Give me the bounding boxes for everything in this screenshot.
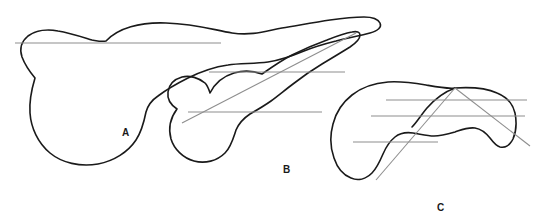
panel-b-axis-line-1 <box>182 33 356 123</box>
panel-c-organ-outline <box>331 82 516 180</box>
panel-c-axis-line-2 <box>455 88 530 146</box>
panel-c-axis-line-1 <box>376 88 455 180</box>
panel-label-b: B <box>283 164 291 175</box>
panel-label-c: C <box>437 202 445 213</box>
panel-label-a: A <box>122 127 130 138</box>
panel-a-organ-outline <box>21 17 381 165</box>
panel-c-organ-inner-contour <box>412 88 455 127</box>
figure-container: A B C <box>0 0 545 219</box>
figure-canvas <box>0 0 545 219</box>
panel-c-group <box>331 82 530 180</box>
panel-a-group <box>15 17 381 165</box>
